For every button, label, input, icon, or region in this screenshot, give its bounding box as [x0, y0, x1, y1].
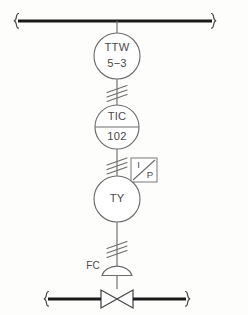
tic-tag-top: TIC — [108, 110, 127, 122]
instrument-ttw[interactable]: TTW 5−3 — [94, 33, 140, 79]
lower-line-right-break-icon — [186, 292, 190, 307]
ttw-tag-bottom: 5−3 — [107, 57, 127, 69]
ip-transducer[interactable]: I P — [131, 158, 157, 184]
instrument-ty[interactable]: TY — [94, 176, 140, 222]
lower-line-left-break-icon — [44, 292, 48, 307]
control-valve-icon — [101, 290, 133, 308]
diaphragm-actuator-icon — [102, 266, 132, 275]
upper-line-left-break-icon — [14, 14, 18, 29]
upper-process-line-group — [14, 14, 216, 29]
signal-ty-to-valve — [107, 222, 127, 272]
upper-line-right-break-icon — [212, 14, 216, 29]
control-valve[interactable] — [101, 290, 133, 308]
signal-ttw-to-tic — [107, 79, 127, 108]
diaphragm-actuator[interactable] — [102, 266, 132, 289]
instrument-bubble-icon — [94, 33, 140, 79]
ty-tag-top: TY — [110, 192, 125, 204]
pid-diagram: TTW 5−3 TIC 102 — [0, 0, 248, 315]
tic-tag-bottom: 102 — [107, 130, 126, 142]
ip-output-letter: P — [147, 169, 153, 180]
instrument-tic[interactable]: TIC 102 — [95, 105, 139, 149]
signal-tic-to-ty — [107, 149, 127, 177]
pid-canvas: TTW 5−3 TIC 102 — [0, 0, 248, 315]
valve-fail-action-label: FC — [86, 260, 99, 271]
ttw-tag-top: TTW — [105, 41, 130, 53]
ip-input-letter: I — [137, 159, 140, 170]
